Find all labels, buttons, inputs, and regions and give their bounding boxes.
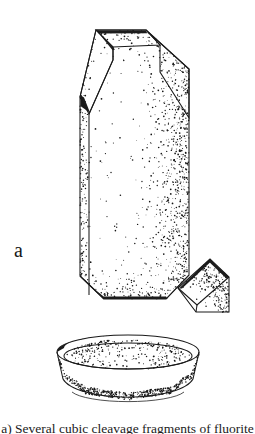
figure-root: a a) Several cubic cleavage fragments of… [0,0,255,434]
illustration-canvas [0,0,255,434]
crystal-top-edge-shadow [97,31,148,34]
shallow-bowl [57,335,200,402]
crystal-body-fill [80,30,189,299]
panel-label-a: a [14,240,23,260]
bowl-body-fill [57,352,199,397]
figure-caption: a) Several cubic cleavage fragments of f… [0,421,255,434]
large-prismatic-crystal [79,30,189,300]
crystal-bottom-edge-shadow [104,297,166,299]
